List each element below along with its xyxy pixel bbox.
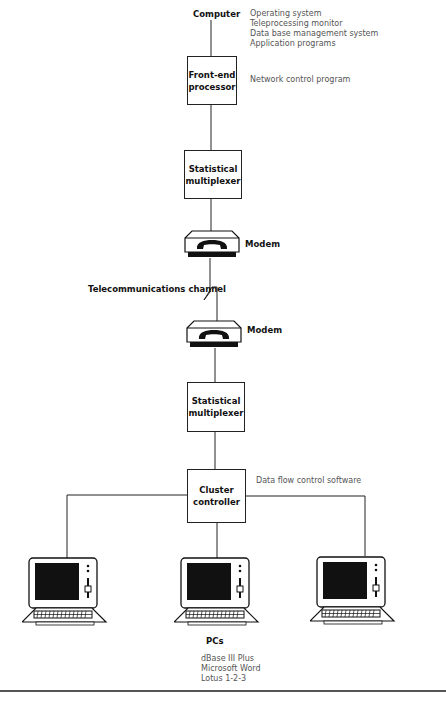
personal-computer-icon: [310, 555, 396, 627]
telephone-modem-icon: [186, 320, 242, 350]
cluster-line1: Cluster: [193, 484, 240, 496]
statistical-multiplexer-bottom-box: Statistical multiplexer: [187, 382, 245, 432]
software-item: dBase III Plus: [201, 654, 261, 664]
cluster-line2: controller: [193, 496, 240, 508]
computer-software-list: Operating system Teleprocessing monitor …: [250, 9, 378, 49]
mux-bottom-line1: Statistical: [188, 395, 243, 407]
front-end-note: Network control program: [250, 75, 350, 85]
personal-computer-icon: [174, 556, 260, 628]
software-item: Data base management system: [250, 29, 378, 39]
software-item: Lotus 1-2-3: [201, 674, 261, 684]
front-end-line2: processor: [188, 81, 235, 93]
telephone-modem-icon: [184, 230, 240, 260]
modem-top-label: Modem: [245, 239, 280, 249]
telecommunications-channel-label: Telecommunications channel: [88, 284, 226, 294]
computer-label: Computer: [193, 9, 240, 19]
cluster-note: Data flow control software: [256, 476, 361, 486]
mux-bottom-line2: multiplexer: [188, 407, 243, 419]
front-end-processor-box: Front-end processor: [187, 56, 237, 105]
software-item: Teleprocessing monitor: [250, 19, 378, 29]
cluster-controller-box: Cluster controller: [187, 469, 246, 523]
personal-computer-icon: [22, 556, 108, 628]
software-item: Operating system: [250, 9, 378, 19]
bottom-divider: [0, 690, 446, 692]
mux-top-line2: multiplexer: [185, 175, 240, 187]
pc-software-list: dBase III Plus Microsoft Word Lotus 1-2-…: [201, 654, 261, 684]
statistical-multiplexer-top-box: Statistical multiplexer: [184, 150, 242, 199]
software-item: Application programs: [250, 39, 378, 49]
modem-bottom-label: Modem: [247, 325, 282, 335]
software-item: Microsoft Word: [201, 664, 261, 674]
front-end-line1: Front-end: [188, 69, 235, 81]
mux-top-line1: Statistical: [185, 163, 240, 175]
pcs-label: PCs: [206, 636, 224, 646]
